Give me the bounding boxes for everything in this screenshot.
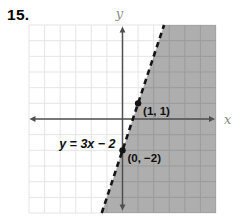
point-label-0: (1, 1) — [143, 105, 170, 117]
coordinate-plane-figure: (1, 1)(0, −2)y = 3x − 2yx — [0, 0, 232, 219]
y-axis-label: y — [115, 6, 124, 21]
x-axis-label: x — [224, 112, 232, 127]
point-dot-0 — [135, 100, 141, 106]
x-axis-left-arrowhead — [30, 116, 36, 122]
point-dot-1 — [119, 147, 125, 153]
point-label-1: (0, −2) — [128, 152, 162, 164]
figure-problem-15: 15. (1, 1)(0, −2)y = 3x − 2yx — [0, 0, 232, 219]
y-axis-top-arrowhead — [120, 27, 126, 33]
equation-label: y = 3x − 2 — [58, 137, 115, 151]
